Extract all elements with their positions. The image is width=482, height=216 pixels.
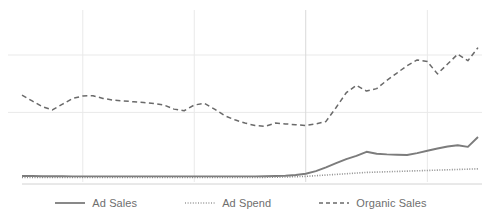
vertical-gridlines <box>22 10 482 184</box>
legend-label-ad-sales: Ad Sales <box>92 197 137 209</box>
legend-item-organic-sales[interactable]: Organic Sales <box>319 197 426 209</box>
legend-item-ad-spend[interactable]: Ad Spend <box>185 197 271 209</box>
plot-svg <box>0 0 482 190</box>
legend-swatch-dotted-icon <box>185 198 215 208</box>
legend-swatch-dashed-icon <box>319 198 349 208</box>
plot-area <box>0 0 482 190</box>
line-chart: Ad Sales Ad Spend Organic Sales <box>0 0 482 216</box>
legend-swatch-solid-icon <box>55 198 85 208</box>
series-line-organic-sales <box>22 48 478 127</box>
chart-legend: Ad Sales Ad Spend Organic Sales <box>0 190 482 216</box>
legend-label-organic-sales: Organic Sales <box>356 197 426 209</box>
legend-item-ad-sales[interactable]: Ad Sales <box>55 197 137 209</box>
legend-label-ad-spend: Ad Spend <box>222 197 271 209</box>
